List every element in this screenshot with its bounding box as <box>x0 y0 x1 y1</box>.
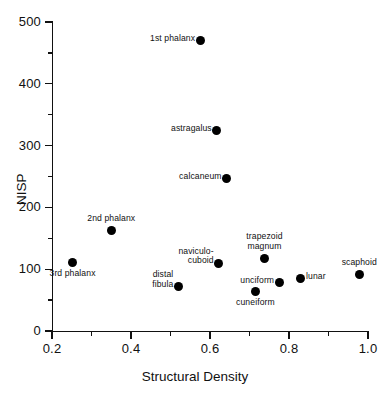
y-tick-label: 200 <box>0 199 41 214</box>
data-point <box>251 287 260 296</box>
data-point <box>355 270 364 279</box>
x-tick-label: 0.4 <box>101 341 161 356</box>
x-tick-major <box>367 332 368 339</box>
y-tick-label: 0 <box>0 323 41 338</box>
data-point <box>222 174 231 183</box>
y-tick-minor <box>48 176 52 177</box>
data-point <box>214 259 223 268</box>
x-tick-label: 1.0 <box>338 341 390 356</box>
data-point <box>107 226 116 235</box>
scatter-plot: NISP Structural Density 0100200300400500… <box>0 0 390 396</box>
data-point <box>68 258 77 267</box>
data-point-label: astragalus <box>92 124 212 134</box>
data-point-label: lunar <box>306 272 390 282</box>
data-point <box>275 278 284 287</box>
y-tick-minor <box>48 299 52 300</box>
x-tick-major <box>51 332 52 339</box>
x-tick-major <box>209 332 210 339</box>
x-tick-minor <box>328 332 329 336</box>
y-tick-major <box>45 21 52 22</box>
data-point-label: unciform <box>154 276 274 286</box>
x-tick-label: 0.6 <box>180 341 240 356</box>
data-point-label: 1st phalanx <box>75 34 195 44</box>
y-tick-major <box>45 83 52 84</box>
y-tick-major <box>45 207 52 208</box>
y-tick-label: 400 <box>0 76 41 91</box>
data-point-label: scaphoid <box>299 258 390 268</box>
x-tick-minor <box>91 332 92 336</box>
y-tick-major <box>45 145 52 146</box>
x-tick-label: 0.2 <box>22 341 82 356</box>
data-point-label: calcaneum <box>102 172 222 182</box>
x-tick-major <box>130 332 131 339</box>
data-point-label: 2nd phalanx <box>51 214 171 224</box>
x-tick-minor <box>249 332 250 336</box>
x-axis-title: Structural Density <box>0 369 390 384</box>
data-point <box>196 36 205 45</box>
y-tick-minor <box>48 238 52 239</box>
y-tick-minor <box>48 52 52 53</box>
x-tick-label: 0.8 <box>259 341 319 356</box>
data-point <box>212 126 221 135</box>
data-point-label: cuneiform <box>195 298 315 308</box>
y-tick-minor <box>48 114 52 115</box>
y-tick-label: 300 <box>0 138 41 153</box>
x-tick-minor <box>170 332 171 336</box>
data-point <box>296 274 305 283</box>
x-tick-major <box>288 332 289 339</box>
data-point <box>260 254 269 263</box>
data-point-label: trapezoid magnum <box>205 232 325 251</box>
y-tick-label: 500 <box>0 14 41 29</box>
data-point-label: naviculo- cuboid <box>94 247 214 266</box>
